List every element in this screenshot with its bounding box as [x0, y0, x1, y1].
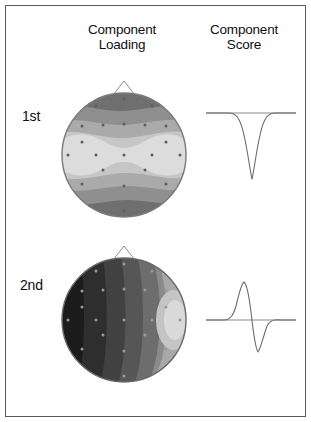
waveform-trace	[206, 282, 296, 352]
topomap-second-component	[56, 243, 192, 385]
column-header-component-score: Component Score	[190, 22, 298, 52]
electrode-dot	[67, 154, 70, 157]
row-label-first: 1st	[22, 108, 40, 124]
column-header-line2: Score	[190, 37, 298, 52]
electrode-dot	[123, 288, 126, 291]
electrode-dot	[81, 183, 84, 186]
electrode-dot	[165, 306, 168, 309]
figure-root: Component Loading Component Score 1st 2n…	[0, 0, 311, 422]
column-header-component-loading: Component Loading	[68, 22, 176, 52]
band-lightest-right-focus	[164, 300, 186, 340]
electrode-dot	[165, 348, 168, 351]
electrode-dot	[67, 319, 70, 322]
electrode-dot	[165, 183, 168, 186]
waveform-trace	[206, 113, 296, 179]
electrode-dot	[165, 290, 168, 293]
electrode-dot	[151, 105, 154, 108]
electrode-dot	[81, 125, 84, 128]
electrode-dot	[151, 154, 154, 157]
electrode-dot	[95, 154, 98, 157]
electrode-dot	[179, 319, 182, 322]
electrode-dot	[123, 263, 126, 266]
electrode-dot	[144, 289, 147, 292]
electrode-dot	[102, 289, 105, 292]
row-label-second: 2nd	[20, 277, 43, 293]
topomap-first-component	[56, 78, 192, 220]
electrode-dot	[165, 141, 168, 144]
electrode-dot	[151, 270, 154, 273]
electrode-dot	[81, 348, 84, 351]
electrode-dot	[123, 350, 126, 353]
electrode-dot	[144, 169, 147, 172]
electrode-dot	[165, 125, 168, 128]
electrode-dot	[102, 334, 105, 337]
electrode-dot	[81, 290, 84, 293]
electrode-dot	[179, 154, 182, 157]
electrode-dot	[81, 306, 84, 309]
electrode-dot	[123, 154, 126, 157]
electrode-dot	[123, 98, 126, 101]
electrode-dot	[123, 210, 126, 213]
electrode-dot	[95, 270, 98, 273]
waveform-second-component-score	[202, 270, 300, 370]
column-header-line2: Loading	[68, 37, 176, 52]
electrode-dot	[81, 141, 84, 144]
electrode-dot	[102, 169, 105, 172]
electrode-dot	[123, 319, 126, 322]
electrode-dot	[144, 334, 147, 337]
electrode-dot	[102, 124, 105, 127]
electrode-dot	[123, 123, 126, 126]
electrode-dot	[144, 124, 147, 127]
electrode-dot	[151, 319, 154, 322]
waveform-first-component-score	[202, 95, 300, 195]
column-header-line1: Component	[68, 22, 176, 37]
electrode-dot	[95, 105, 98, 108]
electrode-dot	[123, 185, 126, 188]
electrode-dot	[95, 319, 98, 322]
electrode-dot	[123, 375, 126, 378]
column-header-line1: Component	[190, 22, 298, 37]
